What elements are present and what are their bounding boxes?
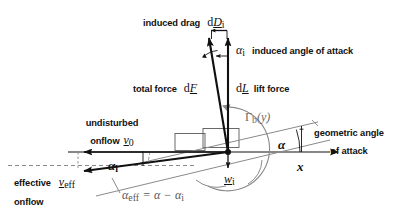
induced-drag-text: induced drag <box>143 18 200 28</box>
alpha-induced-subscript: i <box>242 47 245 58</box>
x-axis-symbol: x <box>297 159 304 174</box>
induced-drag-diagram: induced dragdDi αiinduced angle of attac… <box>0 0 393 213</box>
induced-angle-label: αiinduced angle of attack <box>236 40 353 59</box>
undisturbed-onflow-line1: undisturbed <box>86 118 139 128</box>
alpha-eff-rhs-subscript-2: i <box>181 192 184 203</box>
effective-onflow-subscript: eff <box>64 179 75 190</box>
geometric-angle-label: geometric angle of attack <box>306 122 392 158</box>
geometric-angle-line1: geometric angle <box>314 128 384 138</box>
induced-drag-arrow <box>211 31 227 40</box>
alpha-eff-equals: = <box>143 188 150 202</box>
total-force-label: total forcedF <box>133 78 197 96</box>
geometric-angle-line2: of attack <box>330 146 367 156</box>
alpha-eff-equation: αeff=α−αi <box>122 185 184 204</box>
alpha-geometric-label: α <box>278 135 285 153</box>
alpha-induced-lower-label: αi <box>108 156 118 175</box>
alpha-geometric-symbol: α <box>278 137 285 152</box>
alpha-induced-upper-arc <box>202 46 228 58</box>
alpha-eff-lhs-subscript: eff <box>128 192 139 203</box>
effective-onflow-line1: effective <box>14 178 51 188</box>
induced-drag-vector-symbol: D <box>213 15 222 29</box>
origin-point <box>225 149 231 155</box>
alpha-induced-lower-subscript: i <box>115 163 118 174</box>
lift-force-label: dLlift force <box>236 78 289 96</box>
downwash-label: wi <box>224 169 235 188</box>
circulation-argument: (y) <box>257 110 270 124</box>
total-force-arrow <box>209 38 228 152</box>
lift-force-text: lift force <box>254 84 290 94</box>
x-axis-label: x <box>297 157 304 175</box>
undisturbed-onflow-subscript: 0 <box>129 137 134 148</box>
downwash-subscript: i <box>232 176 235 187</box>
induced-drag-subscript: i <box>222 19 225 30</box>
alpha-geometric-arc <box>296 129 303 152</box>
circulation-gamma-symbol: Γ <box>245 110 252 124</box>
total-force-text: total force <box>133 84 177 94</box>
effective-onflow-arrow <box>84 152 228 171</box>
undisturbed-onflow-line2: onflow <box>90 136 119 146</box>
induced-angle-text: induced angle of attack <box>252 46 353 56</box>
lift-force-vector-symbol: L <box>242 81 249 95</box>
alpha-eff-rhs-symbol-1: α <box>154 188 160 202</box>
downwash-vector-symbol: w <box>224 172 232 186</box>
effective-onflow-line2: onflow <box>14 197 43 207</box>
induced-drag-label: induced dragdDi <box>143 12 225 31</box>
effective-onflow-label: effectiveveff onflow <box>14 172 75 208</box>
total-force-vector-symbol: F <box>190 81 197 95</box>
circulation-label: Γb(y) <box>245 107 270 126</box>
undisturbed-onflow-label: undisturbed onflowv0 <box>62 112 162 148</box>
alpha-eff-minus: − <box>164 188 171 202</box>
